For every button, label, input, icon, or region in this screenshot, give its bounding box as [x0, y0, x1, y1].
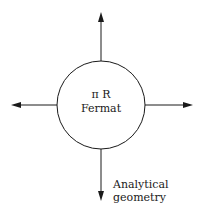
- arrow-down: [98, 149, 104, 201]
- arrow-up: [98, 12, 104, 61]
- bottom-label-line1: Analytical: [113, 178, 169, 191]
- arrow-left: [11, 102, 57, 108]
- center-label-symbol: π R: [91, 88, 110, 101]
- center-label-name: Fermat: [81, 102, 121, 115]
- bottom-label-line2: geometry: [113, 191, 169, 204]
- bottom-label: Analytical geometry: [113, 178, 169, 204]
- arrow-right: [145, 102, 193, 108]
